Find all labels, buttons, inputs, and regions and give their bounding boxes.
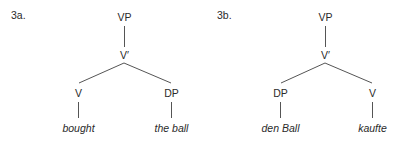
edge-vbar-dp-3b (281, 63, 325, 83)
node-dp: DP (164, 88, 179, 99)
node-dp: DP (273, 88, 288, 99)
edge-vbar-v-3a (79, 63, 124, 83)
node-v: V (75, 88, 82, 99)
leaf-word: kaufte (358, 123, 387, 134)
node-vp: VP (318, 12, 332, 23)
tree-edges (0, 0, 405, 141)
node-v: V (369, 88, 376, 99)
edge-vbar-v-3b (325, 63, 372, 83)
leaf-word: bought (62, 123, 94, 134)
leaf-word: the ball (155, 123, 189, 134)
edge-vbar-dp-3a (124, 63, 171, 83)
node-vbar: V′ (120, 50, 129, 61)
example-label: 3a. (11, 10, 26, 21)
node-vbar: V′ (321, 50, 330, 61)
leaf-word: den Ball (262, 123, 300, 134)
node-vp: VP (117, 12, 131, 23)
example-label: 3b. (217, 10, 232, 21)
